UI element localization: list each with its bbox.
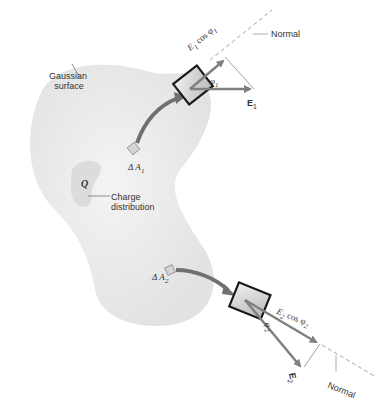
charge-label-line1: Charge [111, 192, 155, 202]
normal-bottom-dashed [322, 345, 376, 377]
e1-sub: 1 [253, 103, 257, 110]
delta-a1-sub: 1 [141, 167, 145, 175]
area-element-2 [229, 282, 270, 319]
diagram-graphics [0, 0, 390, 409]
gaussian-label-line2: surface [49, 81, 87, 91]
gaussian-label-line1: Gaussian [49, 71, 87, 81]
delta-a2-label: Δ A2 [152, 272, 168, 286]
e1-projection [225, 57, 254, 89]
delta-a2-sub: 2 [165, 277, 169, 285]
phi1-label: φ1 [210, 76, 218, 90]
charge-distribution-label: Charge distribution [111, 192, 155, 212]
charge-label-line2: distribution [111, 202, 155, 212]
e2-arrow [245, 300, 300, 366]
charge-symbol: Q [81, 179, 88, 189]
delta-a2-text: Δ A [152, 272, 165, 282]
gaussian-surface-label: Gaussian surface [49, 71, 87, 91]
phi1-sub: 1 [215, 81, 219, 89]
e1-label: E1 [247, 98, 257, 112]
normal-top-dashed [210, 10, 272, 60]
normal-top-label: Normal [271, 29, 300, 39]
e2-projection [304, 344, 320, 367]
delta-a1-text: Δ A [128, 162, 141, 172]
delta-a1-label: Δ A1 [128, 162, 144, 176]
gaussian-surface-diagram: Gaussian surface Normal Q Charge distrib… [0, 0, 390, 409]
